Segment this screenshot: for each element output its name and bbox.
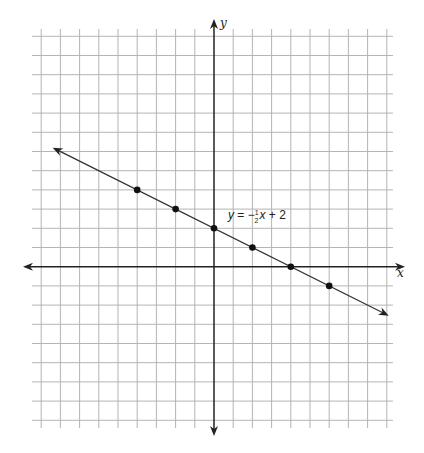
coordinate-plane: x y y = −12x + 2 xyxy=(0,0,424,453)
y-axis-label: y xyxy=(219,16,227,30)
data-point xyxy=(172,206,179,213)
equation-equals: = − xyxy=(234,208,255,222)
data-point xyxy=(288,263,295,270)
equation-fraction-denominator: 2 xyxy=(255,217,259,224)
equation-rest: + 2 xyxy=(266,208,287,222)
data-point xyxy=(134,187,141,194)
equation-fraction-numerator: 1 xyxy=(255,209,259,216)
equation-label: y = −12x + 2 xyxy=(227,208,286,224)
x-axis-label: x xyxy=(397,266,404,280)
data-point xyxy=(211,225,218,232)
graph-line xyxy=(58,150,383,313)
data-point xyxy=(326,283,333,290)
data-point xyxy=(249,244,256,251)
series xyxy=(53,148,389,316)
